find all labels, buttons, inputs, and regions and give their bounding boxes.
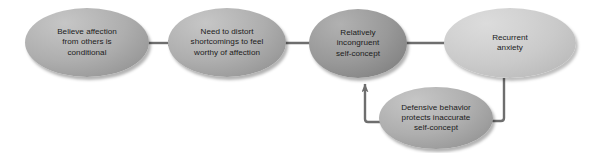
node-label: Relatively incongruent self-concept bbox=[309, 28, 407, 59]
node-label: Need to distort shortcomings to feel wor… bbox=[168, 27, 286, 58]
node-defensive-behavior[interactable]: Defensive behavior protects inaccurate s… bbox=[379, 87, 493, 149]
node-need-to-distort[interactable]: Need to distort shortcomings to feel wor… bbox=[168, 8, 286, 77]
node-label: Recurrent anxiety bbox=[444, 33, 576, 53]
node-believe-affection[interactable]: Believe affection from others is conditi… bbox=[25, 8, 149, 77]
flowchart-canvas: Believe affection from others is conditi… bbox=[0, 0, 593, 153]
node-label: Believe affection from others is conditi… bbox=[25, 27, 149, 58]
node-recurrent-anxiety[interactable]: Recurrent anxiety bbox=[444, 8, 576, 78]
node-label: Defensive behavior protects inaccurate s… bbox=[379, 103, 493, 134]
node-incongruent-self-concept[interactable]: Relatively incongruent self-concept bbox=[309, 9, 407, 78]
